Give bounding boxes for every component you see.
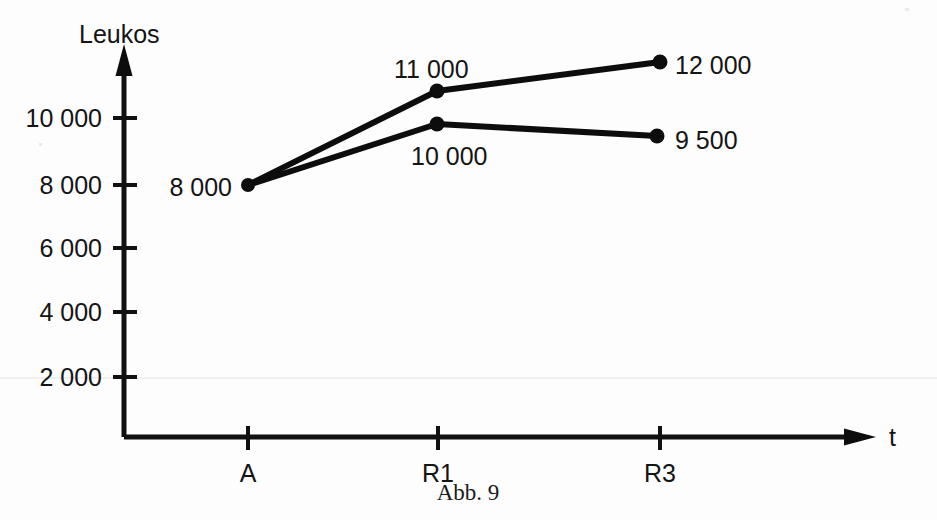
x-axis bbox=[124, 429, 876, 446]
x-tick-label-r3: R3 bbox=[644, 459, 676, 487]
y-tick-label: 8 000 bbox=[39, 171, 102, 199]
y-tick-label: 10 000 bbox=[26, 104, 102, 132]
data-point-marker bbox=[430, 117, 445, 132]
x-tick-label-a: A bbox=[240, 459, 257, 487]
point-label-r3-12000: 12 000 bbox=[675, 51, 751, 79]
figure-page: Leukos 10 000 8 000 6 000 4 000 2 000 t … bbox=[0, 0, 937, 520]
data-point-marker bbox=[430, 84, 445, 99]
leukocyte-line-chart: Leukos 10 000 8 000 6 000 4 000 2 000 t … bbox=[0, 0, 937, 520]
y-tick-label: 2 000 bbox=[39, 363, 102, 391]
y-tick-label: 4 000 bbox=[39, 298, 102, 326]
y-axis-title: Leukos bbox=[79, 20, 160, 48]
point-label-r1-10000: 10 000 bbox=[411, 142, 487, 170]
point-label-a-8000: 8 000 bbox=[169, 173, 232, 201]
figure-caption: Abb. 9 bbox=[437, 480, 500, 505]
point-label-r1-11000: 11 000 bbox=[394, 55, 469, 83]
data-point-marker bbox=[650, 129, 665, 144]
y-tick-label: 6 000 bbox=[39, 234, 102, 262]
x-axis-title: t bbox=[889, 423, 896, 451]
point-label-r3-9500: 9 500 bbox=[675, 126, 738, 154]
y-axis-arrowhead-icon bbox=[116, 44, 133, 76]
y-tick-group: 10 000 8 000 6 000 4 000 2 000 bbox=[26, 104, 137, 391]
x-axis-arrowhead-icon bbox=[844, 429, 876, 446]
data-point-marker bbox=[653, 55, 668, 70]
